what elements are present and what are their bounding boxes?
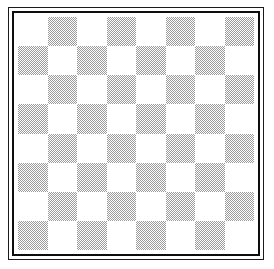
board-square [225, 104, 255, 133]
board-square [136, 75, 166, 104]
board-square [225, 163, 255, 192]
board-square [18, 163, 48, 192]
board-square [48, 192, 78, 221]
board-container [18, 17, 254, 250]
board-square [48, 75, 78, 104]
board-square [195, 221, 225, 250]
board-square [18, 134, 48, 163]
board-square [48, 221, 78, 250]
board-square [136, 134, 166, 163]
board-square [136, 17, 166, 46]
board-square [136, 163, 166, 192]
board-square [107, 46, 137, 75]
board-square [18, 221, 48, 250]
board-square [225, 17, 255, 46]
board-square [18, 75, 48, 104]
board-square [107, 221, 137, 250]
board-square [166, 221, 196, 250]
board-square [166, 17, 196, 46]
board-square [166, 163, 196, 192]
board-square [195, 163, 225, 192]
board-square [18, 104, 48, 133]
board-square [136, 46, 166, 75]
board-square [225, 221, 255, 250]
board-square [225, 46, 255, 75]
board-square [107, 17, 137, 46]
board-square [107, 134, 137, 163]
board-square [166, 46, 196, 75]
board-square [107, 104, 137, 133]
board-square [195, 17, 225, 46]
board-square [107, 192, 137, 221]
board-square [48, 163, 78, 192]
board-square [195, 192, 225, 221]
board-square [136, 192, 166, 221]
board-square [77, 221, 107, 250]
board-square [18, 17, 48, 46]
board-square [195, 46, 225, 75]
board-square [195, 104, 225, 133]
board-square [166, 134, 196, 163]
board-square [195, 134, 225, 163]
board-square [107, 75, 137, 104]
board-square [18, 46, 48, 75]
board-square [77, 46, 107, 75]
checkerboard-grid [18, 17, 254, 250]
board-square [48, 46, 78, 75]
board-square [77, 192, 107, 221]
board-square [48, 17, 78, 46]
board-square [136, 221, 166, 250]
board-square [225, 134, 255, 163]
checkerboard-figure [0, 0, 274, 269]
board-square [166, 104, 196, 133]
board-square [136, 104, 166, 133]
board-square [77, 163, 107, 192]
board-square [166, 192, 196, 221]
board-square [18, 192, 48, 221]
board-square [77, 17, 107, 46]
board-square [48, 104, 78, 133]
board-square [225, 192, 255, 221]
board-square [195, 75, 225, 104]
board-square [225, 75, 255, 104]
board-square [77, 75, 107, 104]
board-square [166, 75, 196, 104]
board-square [77, 104, 107, 133]
board-square [48, 134, 78, 163]
board-square [107, 163, 137, 192]
board-square [77, 134, 107, 163]
